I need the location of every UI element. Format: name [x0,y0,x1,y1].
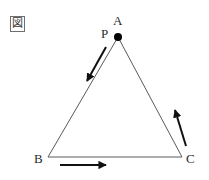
triangle-path [48,37,182,157]
vertex-label-c: C [186,152,195,165]
point-label-p: P [101,27,108,40]
arrow-ab [87,47,106,81]
vertex-label-a: A [113,14,122,27]
point-p-marker [114,33,122,41]
point-p-dot [114,33,122,41]
vertex-label-b: B [34,152,43,165]
triangle-outline [48,37,182,157]
figure-container: 図 A P B C [0,0,209,180]
arrow-ca [175,110,186,146]
direction-arrows [60,47,186,165]
